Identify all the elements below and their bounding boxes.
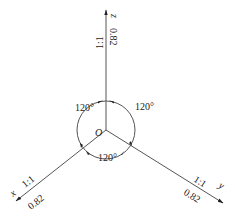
z-axis-coefficient: 0.82 xyxy=(108,28,119,46)
y-axis-label: y xyxy=(216,179,227,192)
y-axis xyxy=(106,130,223,203)
y-axis-coefficient: 0.82 xyxy=(182,186,203,205)
x-axis-coefficient: 0.82 xyxy=(25,192,46,211)
angle-label-bottom: 120° xyxy=(98,152,117,163)
z-axis-label: z xyxy=(109,13,120,18)
z-axis-ratio: 1:1 xyxy=(94,36,105,49)
angle-label-upper-right: 120° xyxy=(135,101,154,112)
origin-label: O xyxy=(95,127,102,138)
x-axis-label: x xyxy=(7,187,19,199)
y-axis-ratio: 1:1 xyxy=(192,173,209,189)
angle-label-upper-left: 120° xyxy=(75,102,94,113)
isometric-axes-diagram: O 120° 120° 120° z 1:1 0.82 x 1:1 0.82 1… xyxy=(0,0,235,216)
x-axis xyxy=(16,130,106,201)
